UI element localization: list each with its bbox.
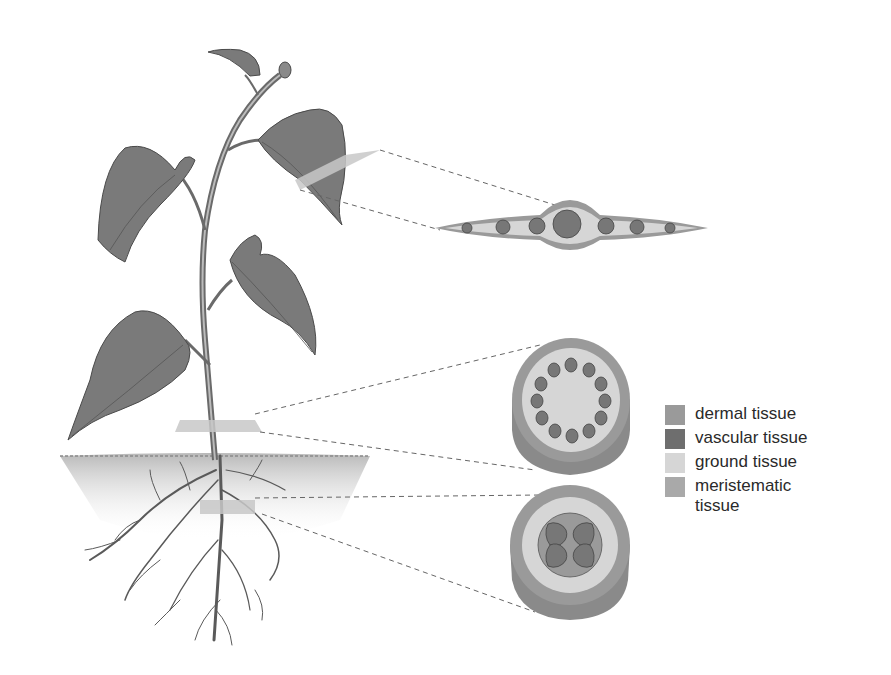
bud — [279, 62, 291, 78]
legend-label: dermal tissue — [695, 404, 835, 424]
leaf-middle-right — [230, 235, 316, 355]
ground-swatch-icon — [665, 453, 685, 473]
leaf-top — [208, 49, 260, 76]
root-cut-plane — [200, 500, 255, 514]
stem-cross-section — [512, 338, 630, 475]
vascular-swatch-icon — [665, 429, 685, 449]
leaf-cross-section — [435, 200, 708, 250]
legend-label: ground tissue — [695, 452, 835, 472]
legend-item-vascular: vascular tissue — [665, 428, 835, 452]
leaf-lower-left — [68, 311, 190, 440]
legend-label: meristematic tissue — [695, 476, 835, 516]
dermal-swatch-icon — [665, 405, 685, 425]
soil — [60, 453, 370, 540]
legend-item-dermal: dermal tissue — [665, 404, 835, 428]
plant-diagram — [0, 0, 891, 675]
root-cross-section — [510, 485, 630, 620]
legend-item-ground: ground tissue — [665, 452, 835, 476]
leaf-upper-left — [98, 146, 195, 262]
legend-item-meristematic: meristematic tissue — [665, 476, 835, 520]
meristematic-swatch-icon — [665, 477, 685, 497]
legend-label: vascular tissue — [695, 428, 835, 448]
stem-cut-plane — [175, 420, 262, 432]
legend: dermal tissue vascular tissue ground tis… — [665, 404, 835, 520]
